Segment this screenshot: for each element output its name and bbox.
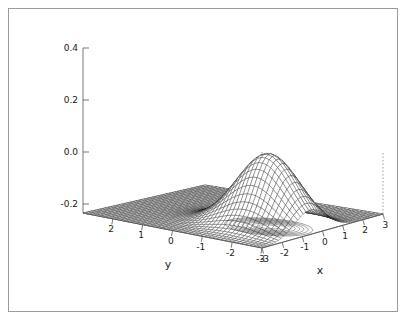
- x-tick-label: -1: [300, 242, 309, 252]
- wireframe-surface-mesh: [83, 153, 383, 247]
- z-tick-label: -0.2: [60, 199, 78, 209]
- y-tick-label: 1: [138, 230, 144, 240]
- x-tick-label: 2: [362, 225, 368, 235]
- surface-plot: 0.4 0.2 0.0 -0.2 210-1-2-3 y -3-2-10123 …: [0, 0, 407, 321]
- figure-container: 0.4 0.2 0.0 -0.2 210-1-2-3 y -3-2-10123 …: [0, 0, 407, 321]
- z-tick-label: 0.2: [64, 95, 78, 105]
- x-tick-label: -3: [260, 254, 269, 264]
- y-tick-label: -1: [196, 242, 205, 252]
- y-axis-title: y: [165, 258, 172, 271]
- x-tick-label: 0: [322, 237, 328, 247]
- x-tick-label: -2: [280, 248, 289, 258]
- x-tick-label: 1: [342, 231, 348, 241]
- y-tick-label: 0: [168, 236, 174, 246]
- y-tick-label: -2: [226, 248, 235, 258]
- x-tick-label: 3: [383, 220, 389, 230]
- x-axis-title: x: [317, 264, 324, 277]
- z-tick-label: 0.0: [64, 147, 79, 157]
- z-tick-label: 0.4: [64, 43, 79, 53]
- y-tick-label: 2: [108, 224, 114, 234]
- z-axis: [83, 48, 89, 213]
- z-axis-tick-labels: 0.4 0.2 0.0 -0.2: [60, 43, 78, 209]
